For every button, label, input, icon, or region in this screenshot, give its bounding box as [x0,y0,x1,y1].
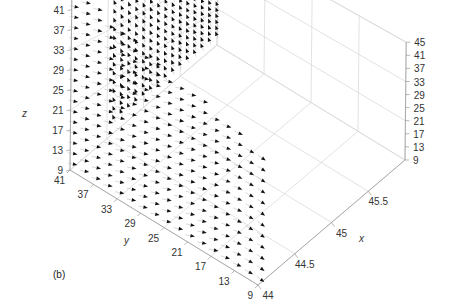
z-tick-right: 25 [414,103,426,114]
x-tick: 44.5 [295,259,315,270]
x-tick: 45.5 [369,196,389,207]
y-tick: 21 [171,247,183,258]
z-tick-right: 9 [413,155,419,166]
z-tick-left: 21 [52,105,64,116]
z-tick-left: 33 [53,45,65,56]
y-tick: 29 [124,218,136,229]
vector-field [68,0,266,282]
y-axis-label: y [123,235,130,246]
y-tick: 37 [77,189,89,200]
z-tick-right: 29 [414,90,426,101]
y-tick: 25 [148,233,160,244]
y-tick: 33 [101,204,113,215]
z-tick-left: 13 [52,145,64,156]
z-tick-right: 45 [414,37,426,48]
z-tick-right: 37 [414,63,426,74]
z-tick-left: 29 [53,65,65,76]
y-tick: 13 [218,276,230,287]
z-tick-right: 13 [413,142,425,153]
z-tick-right: 17 [413,129,425,140]
y-tick: 41 [54,175,66,186]
z-tick-left: 25 [53,85,65,96]
z-tick-right: 41 [414,50,426,61]
z-tick-right: 33 [414,77,426,88]
z-tick-left: 17 [52,125,64,136]
x-axis-label: x [358,233,365,244]
panel-label: (b) [53,269,65,280]
x-tick: 44 [262,290,274,301]
y-tick: 9 [247,290,253,301]
z-tick-left: 37 [53,25,65,36]
z-tick-left: 41 [54,5,66,16]
x-tick: 45 [336,228,348,239]
z-tick-right: 21 [413,116,425,127]
z-axis-label: z [21,108,27,119]
quiver3-plot: 4541373329252117139454137332925211713941… [0,0,457,303]
y-tick: 17 [195,261,207,272]
